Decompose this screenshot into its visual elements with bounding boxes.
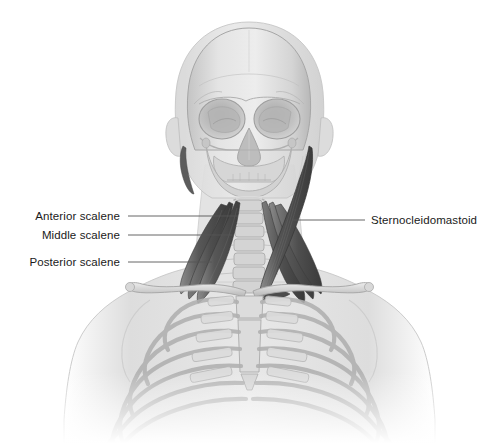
ear-left	[166, 118, 181, 157]
ear-right	[318, 118, 333, 157]
bottom-fade	[0, 372, 499, 443]
label-anterior-scalene: Anterior scalene	[35, 210, 120, 222]
label-middle-scalene: Middle scalene	[42, 229, 120, 241]
orbit-left	[199, 99, 245, 139]
anatomical-figure: Anterior scaleneMiddle scalenePosterior …	[0, 0, 499, 443]
orbit-right	[254, 99, 300, 139]
label-posterior-scalene: Posterior scalene	[29, 256, 120, 268]
label-sternocleidomastoid: Sternocleidomastoid	[371, 214, 477, 226]
